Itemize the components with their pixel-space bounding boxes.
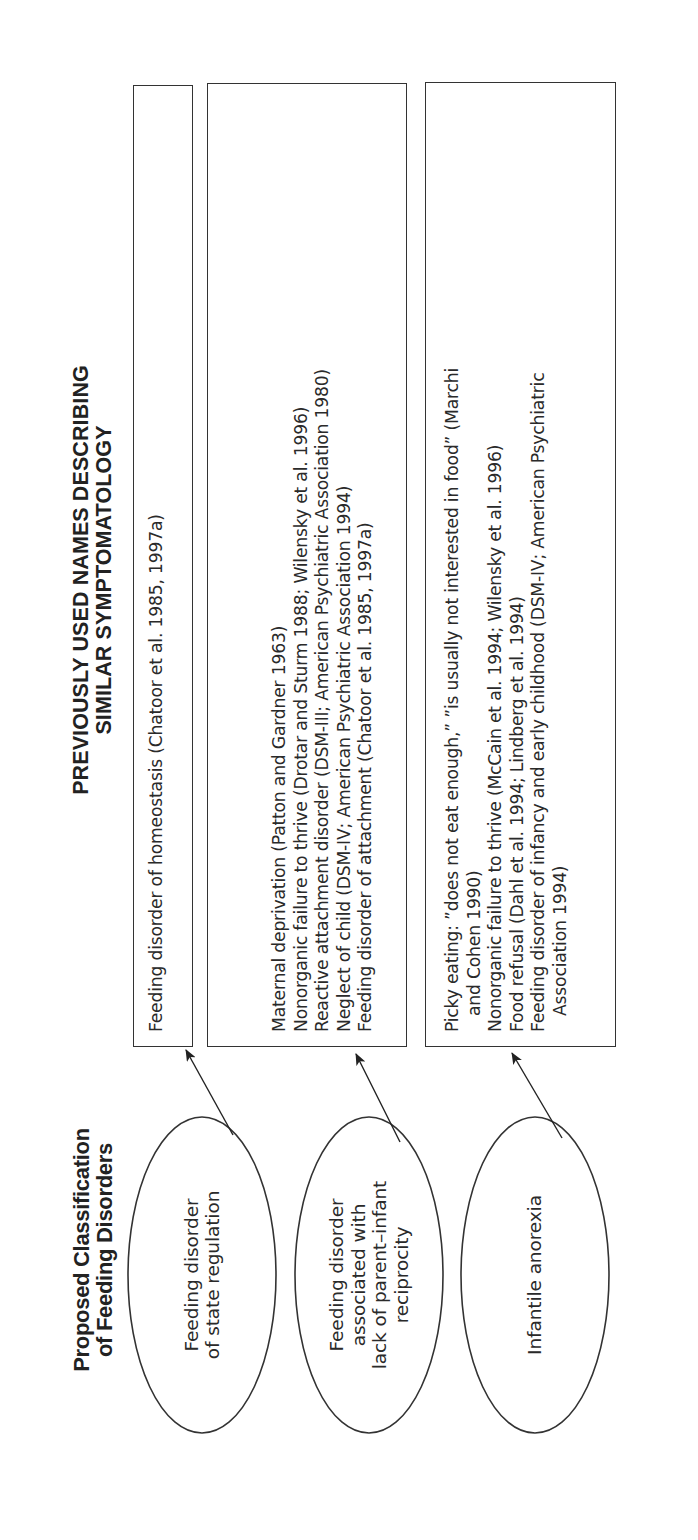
classification-label-parent-infant-reciprocity: Feeding disorder associated with lack of… — [320, 1145, 418, 1405]
previous-names-box-infantile-anorexia: Picky eating: ”does not eat enough,” ”is… — [425, 82, 616, 1047]
previous-name-item-continued: Association 1994) — [550, 93, 572, 1032]
previous-name-item: Food refusal (Dahl et al. 1994; Lindberg… — [507, 93, 529, 1032]
previous-name-item: Feeding disorder of infancy and early ch… — [528, 93, 550, 1032]
classification-label-infantile-anorexia: Infantile anorexia — [510, 1145, 560, 1405]
arrow-infantile-anorexia — [512, 1053, 562, 1138]
previous-name-item: Feeding disorder of homeostasis (Chatoor… — [146, 96, 168, 1032]
arrow-state-regulation — [186, 1050, 233, 1135]
previous-name-item: Nonorganic failure to thrive (McCain et … — [485, 93, 507, 1032]
label-line: Infantile anorexia — [524, 1195, 546, 1355]
classification-label-state-regulation: Feeding disorder of state regulation — [160, 1145, 244, 1405]
previous-name-item: Neglect of child (DSM-IV; American Psych… — [334, 94, 356, 1032]
label-line: Feeding disorder — [181, 1191, 203, 1360]
label-line: reciprocity — [391, 1181, 413, 1369]
label-line: of state regulation — [202, 1191, 224, 1360]
previous-name-item: Picky eating: ”does not eat enough,” ”is… — [442, 93, 464, 1032]
previous-name-item: Feeding disorder of attachment (Chatoor … — [355, 94, 377, 1032]
label-line: Feeding disorder — [326, 1181, 348, 1369]
label-line: associated with — [348, 1181, 370, 1369]
previous-name-item: Nonorganic failure to thrive (Drotar and… — [291, 94, 313, 1032]
previous-name-item-continued: and Cohen 1990) — [464, 93, 486, 1032]
arrow-parent-infant-reciprocity — [356, 1054, 400, 1142]
previous-name-item: Reactive attachment disorder (DSM-III; A… — [312, 94, 334, 1032]
previous-name-item: Maternal deprivation (Patton and Gardner… — [269, 94, 291, 1032]
previous-names-box-parent-infant-reciprocity: Maternal deprivation (Patton and Gardner… — [207, 83, 407, 1047]
label-line: lack of parent–infant — [369, 1181, 391, 1369]
previous-names-box-state-regulation: Feeding disorder of homeostasis (Chatoor… — [133, 85, 193, 1047]
feeding-disorders-diagram: Proposed Classification of Feeding Disor… — [0, 0, 698, 1540]
